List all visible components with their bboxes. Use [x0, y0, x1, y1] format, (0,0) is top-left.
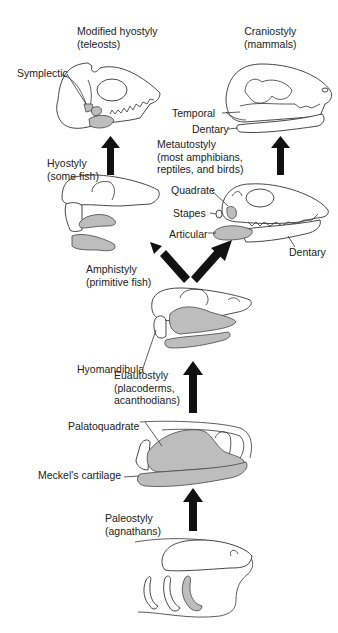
teleost-skull	[57, 63, 160, 128]
arrow-paleostyly-to-euautostyly	[183, 488, 203, 531]
arrow-amphistyly-to-hyostyly	[150, 242, 190, 283]
label-hyostyly: Hyostyly (some fish)	[47, 157, 99, 182]
label-craniostyly: Craniostyly (mammals)	[244, 25, 297, 50]
amphistyly-skull	[152, 288, 252, 348]
arrow-amphistyly-to-metautostyly	[191, 240, 232, 283]
agnathan-head	[135, 539, 253, 617]
label-paleostyly: Paleostyly (agnathans)	[105, 512, 161, 537]
articular-bone	[214, 226, 253, 240]
label-symplectic: Symplectic	[17, 67, 68, 80]
label-modified-hyostyly: Modified hyostyly (teleosts)	[77, 25, 158, 50]
diagram-artwork	[0, 0, 338, 633]
mammal-skull	[226, 64, 332, 133]
arrow-hyostyly-to-modified	[101, 136, 120, 175]
label-hyomandibula: Hyomandibula	[77, 363, 144, 376]
reptile-skull	[214, 184, 329, 242]
label-meckels-cartilage: Meckel's cartilage	[38, 469, 121, 482]
hyostyly-skull	[62, 175, 159, 251]
label-dentary-mammal: Dentary	[192, 123, 229, 136]
placoderm-skull	[136, 421, 252, 486]
label-stapes: Stapes	[173, 207, 206, 220]
arrow-euautostyly-to-amphistyly	[183, 361, 203, 413]
label-quadrate: Quadrate	[171, 184, 215, 197]
label-dentary-reptile: Dentary	[289, 246, 326, 259]
quadrate-bone	[227, 206, 237, 218]
label-amphistyly: Amphistyly (primitive fish)	[86, 263, 151, 288]
label-palatoquadrate: Palatoquadrate	[68, 420, 139, 433]
label-metautostyly: Metautostyly (most amphibians, reptiles,…	[157, 138, 243, 176]
arrow-metautostyly-to-craniostyly	[271, 136, 290, 175]
label-articular: Articular	[169, 228, 208, 241]
label-temporal: Temporal	[172, 107, 215, 120]
